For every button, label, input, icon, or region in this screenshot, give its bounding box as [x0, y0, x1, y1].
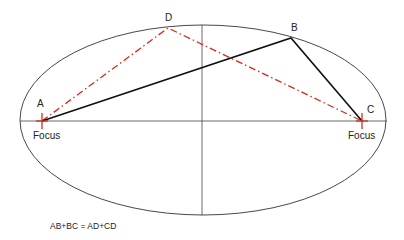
point-label-b: B: [291, 22, 298, 33]
ellipse-diagram: A B C D Focus Focus AB+BC = AD+CD: [0, 0, 404, 240]
point-label-d: D: [165, 12, 172, 23]
point-label-a: A: [37, 98, 44, 109]
equation-text: AB+BC = AD+CD: [50, 221, 116, 231]
focus-a-marker: [36, 113, 48, 129]
point-label-c: C: [367, 104, 374, 115]
focus-label-right: Focus: [348, 130, 375, 141]
focus-label-left: Focus: [33, 130, 60, 141]
ellipse-outline: [20, 25, 386, 215]
